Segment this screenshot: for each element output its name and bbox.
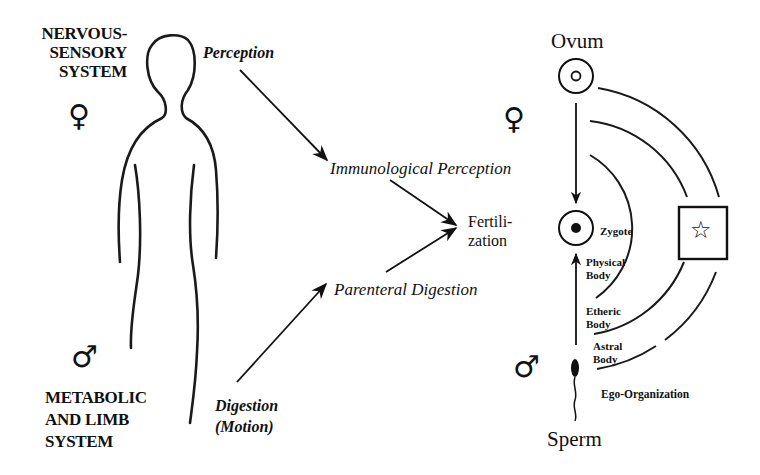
etheric-body-label: Etheric Body [586, 305, 621, 330]
label-line: (Motion) [215, 417, 278, 438]
label-line: Etheric [586, 305, 621, 318]
female-symbol-icon: ♀ [503, 104, 525, 134]
label-line: NERVOUS- [23, 25, 127, 42]
immunological-to-fertilization-arrow [390, 180, 456, 225]
zygote-icon [559, 211, 593, 245]
metabolic-limb-system-label: METABOLIC AND LIMB SYSTEM [45, 389, 147, 450]
immunological-perception-label: Immunological Perception [330, 160, 511, 177]
sperm-label: Sperm [547, 429, 602, 450]
star-icon: ☆ [690, 218, 712, 242]
label-line: METABOLIC [45, 389, 147, 406]
label-line: Astral [593, 340, 622, 353]
label-line: Fertili- [468, 212, 512, 231]
astral-arc-top [598, 88, 719, 197]
label-line: Body [586, 318, 621, 331]
process-arrows [237, 70, 456, 382]
label-line: Physical [586, 256, 625, 269]
zygote-label: Zygote [600, 225, 632, 238]
astral-body-label: Astral Body [593, 340, 622, 365]
sperm-icon [571, 359, 579, 421]
label-line: Body [586, 269, 625, 282]
human-figure-outline [119, 35, 218, 423]
label-line: Digestion [215, 396, 278, 417]
label-line: SYSTEM [45, 433, 147, 450]
label-line: SYSTEM [23, 63, 127, 80]
digestion-motion-label: Digestion (Motion) [215, 396, 278, 438]
label-line: SENSORY [23, 44, 127, 61]
etheric-arc-top [590, 121, 687, 197]
ego-organization-label: Ego-Organization [601, 388, 689, 401]
label-line: AND LIMB [45, 411, 147, 428]
fertilization-label: Fertili- zation [468, 212, 512, 250]
label-line: Body [593, 353, 622, 366]
female-symbol-icon: ♀ [68, 101, 90, 131]
digestion-arrow [237, 284, 326, 382]
male-symbol-icon: ♂ [71, 342, 98, 372]
parenteral-to-fertilization-arrow [386, 228, 456, 272]
label-line: zation [468, 231, 512, 250]
male-symbol-icon: ♂ [513, 352, 540, 382]
perception-arrow [240, 70, 327, 160]
ovum-label: Ovum [551, 31, 604, 52]
perception-label: Perception [203, 45, 274, 61]
nervous-sensory-system-label: NERVOUS- SENSORY SYSTEM [23, 25, 127, 80]
ovum-icon [559, 59, 593, 93]
parenteral-digestion-label: Parenteral Digestion [334, 281, 477, 298]
physical-body-label: Physical Body [586, 256, 625, 281]
